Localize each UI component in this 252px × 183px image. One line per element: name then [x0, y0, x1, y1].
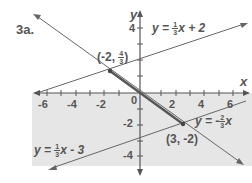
arrow-line-1: [240, 23, 248, 28]
x-tick-label: -6: [38, 98, 48, 110]
x-tick-label: -2: [96, 98, 106, 110]
x-tick-label: 0: [131, 94, 137, 106]
y-axis-arrow-up: [137, 10, 143, 17]
point-neg2-4-3: [108, 69, 112, 73]
y-tick-label: -2: [123, 117, 133, 129]
point-label-3-neg2: (3, -2): [166, 134, 198, 145]
equation-label-1: y = 13x + 2: [152, 21, 205, 36]
y-tick-label: -4: [123, 149, 133, 161]
equation-label-3: y = 13x - 3: [34, 143, 84, 158]
arrow-line-2-top: [33, 14, 41, 20]
equation-label-2: y = -23x: [195, 114, 232, 129]
problem-label: 3a.: [16, 24, 34, 35]
x-axis-label: x: [240, 76, 247, 87]
line-y-1-3x-plus-2: [40, 24, 244, 92]
y-tick-label: 4: [129, 22, 135, 34]
y-axis-arrow-down: [137, 169, 143, 176]
y-axis-label: y: [130, 9, 137, 20]
point-label-neg2-4-3: (-2, 43): [97, 50, 128, 65]
x-tick-label: 4: [198, 98, 204, 110]
point-3-neg2: [181, 122, 185, 126]
x-tick-label: 2: [169, 98, 175, 110]
x-tick-label: -4: [67, 98, 77, 110]
x-tick-label: 6: [227, 98, 233, 110]
